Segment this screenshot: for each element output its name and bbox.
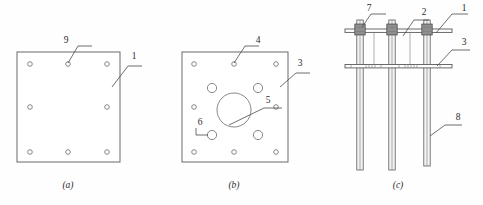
central-opening — [217, 93, 251, 127]
nut — [387, 24, 397, 35]
bolt-hole — [274, 150, 279, 155]
panel-c-anchor-rods — [357, 20, 430, 170]
callout-label-3: 3 — [462, 37, 467, 47]
panel-c-lower-plate — [345, 65, 452, 68]
medium-hole — [207, 83, 216, 92]
bolt-hole — [28, 62, 33, 67]
bolt-hole — [105, 62, 110, 67]
bolt-hole — [274, 105, 279, 110]
panel-b-caption: (b) — [228, 180, 239, 191]
nut — [355, 24, 365, 35]
callout-label-1: 1 — [132, 51, 137, 61]
panel-c-callout-8: 8 — [430, 112, 462, 136]
panel-c-callout-7: 7 — [362, 3, 386, 27]
panel-c-callout-1: 1 — [436, 3, 468, 33]
bolt-hole — [28, 105, 33, 110]
lower-plate-body — [345, 65, 452, 68]
callout-label-8: 8 — [456, 112, 461, 122]
callout-label-3: 3 — [298, 58, 303, 68]
bolt-hole — [105, 150, 110, 155]
callout-label-5: 5 — [266, 95, 271, 105]
panel-c-caption: (c) — [393, 180, 404, 191]
callout-label-6: 6 — [198, 117, 203, 127]
callout-label-4: 4 — [256, 35, 261, 45]
callout-label-9: 9 — [64, 35, 69, 45]
technical-drawing-figure: 9 1 (a) — [0, 0, 483, 205]
medium-hole — [253, 130, 262, 139]
nut — [422, 24, 432, 35]
bolt-hole — [232, 150, 237, 155]
medium-hole — [207, 130, 216, 139]
leader-line — [437, 50, 470, 66]
bolt-hole — [192, 62, 197, 67]
panel-a: 9 1 (a) — [17, 35, 142, 191]
bolt-hole — [28, 150, 33, 155]
panel-a-caption: (a) — [62, 180, 73, 191]
bolt-hole — [105, 105, 110, 110]
panel-c: 7 2 1 3 8 (c) — [345, 3, 470, 191]
leader-line — [430, 125, 462, 136]
medium-hole — [253, 83, 262, 92]
figure-canvas: 9 1 (a) — [0, 0, 483, 205]
bolt-hole — [66, 150, 71, 155]
bolt-hole — [192, 105, 197, 110]
panel-c-callout-3: 3 — [437, 37, 470, 66]
panel-b: 4 3 5 6 (b) — [182, 35, 310, 191]
callout-label-2: 2 — [422, 7, 427, 17]
bolt-hole — [274, 62, 279, 67]
bolt-hole — [192, 150, 197, 155]
leader-line — [362, 14, 386, 27]
callout-label-1: 1 — [462, 3, 467, 13]
callout-label-7: 7 — [367, 3, 372, 13]
